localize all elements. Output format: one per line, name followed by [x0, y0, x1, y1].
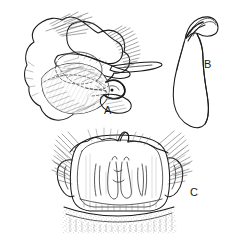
- panel-label-b: B: [204, 59, 212, 70]
- panel-label-a: A: [104, 105, 112, 116]
- plate-drawing: .ink { fill:none; stroke:#1a1a1a; stroke…: [0, 0, 237, 246]
- illustration-plate: .ink { fill:none; stroke:#1a1a1a; stroke…: [0, 0, 237, 246]
- panel-label-c: C: [190, 187, 198, 198]
